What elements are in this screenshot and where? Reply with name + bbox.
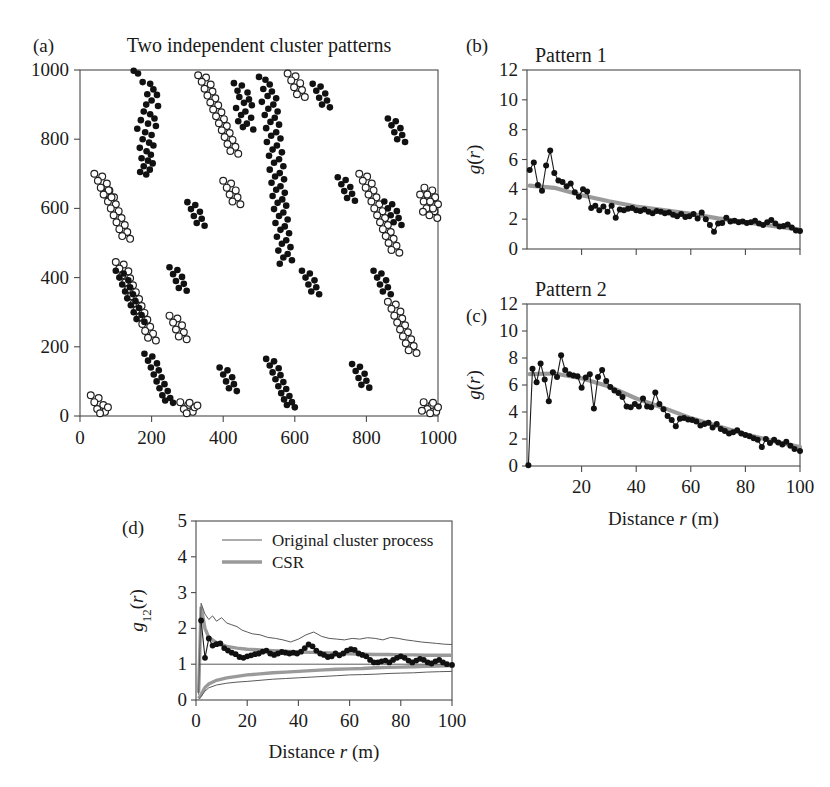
scatter-point-pattern1 xyxy=(153,378,160,385)
panel-d-x-tick-label: 60 xyxy=(340,710,359,731)
scatter-point-pattern2 xyxy=(221,134,228,141)
panel-d-x-tick-label: 0 xyxy=(191,710,201,731)
scatter-point-pattern1 xyxy=(119,281,126,288)
panel-b-data-point xyxy=(568,180,574,186)
scatter-point-pattern1 xyxy=(148,151,155,158)
scatter-point-pattern2 xyxy=(301,94,308,101)
panel-b-data-point xyxy=(711,229,717,235)
scatter-point-pattern1 xyxy=(235,118,242,125)
scatter-point-pattern1 xyxy=(274,233,281,240)
scatter-point-pattern2 xyxy=(216,120,223,127)
scatter-point-pattern1 xyxy=(130,291,137,298)
scatter-point-pattern1 xyxy=(240,124,247,131)
panel-b-data-point xyxy=(691,211,697,217)
panel-c-data-point xyxy=(792,446,798,452)
scatter-point-pattern2 xyxy=(385,240,392,247)
panel-b-y-tick-label: 4 xyxy=(509,178,519,199)
panel-b-y-tick-label: 10 xyxy=(499,89,518,110)
scatter-point-pattern2 xyxy=(284,70,291,77)
scatter-point-pattern2 xyxy=(297,80,304,87)
panel-b-data-point xyxy=(699,210,705,216)
scatter-point-pattern1 xyxy=(128,302,135,309)
scatter-point-pattern1 xyxy=(269,369,276,376)
scatter-point-pattern1 xyxy=(125,277,132,284)
scatter-point-pattern1 xyxy=(277,227,284,234)
scatter-point-pattern1 xyxy=(281,190,288,197)
scatter-point-pattern2 xyxy=(356,170,363,177)
panel-c-y-tick-label: 4 xyxy=(509,401,519,422)
scatter-point-pattern2 xyxy=(103,180,110,187)
scatter-point-pattern1 xyxy=(179,274,186,281)
scatter-point-pattern1 xyxy=(276,260,283,267)
scatter-point-pattern1 xyxy=(266,362,273,369)
scatter-point-pattern1 xyxy=(391,129,398,136)
panel-c-data-point xyxy=(755,437,761,443)
scatter-point-pattern1 xyxy=(265,105,272,112)
panel-b-data-point xyxy=(576,194,582,200)
panel-b-title: Pattern 1 xyxy=(535,44,607,66)
panel-c-data-point xyxy=(673,423,679,429)
panel-c-data-point xyxy=(591,406,597,412)
scatter-point-pattern1 xyxy=(116,274,123,281)
scatter-point-pattern1 xyxy=(223,378,230,385)
panel-c-data-point xyxy=(652,389,658,395)
scatter-point-pattern2 xyxy=(224,141,231,148)
scatter-point-pattern1 xyxy=(316,291,323,298)
scatter-point-pattern2 xyxy=(426,212,433,219)
scatter-point-pattern1 xyxy=(260,86,267,93)
scatter-point-pattern2 xyxy=(173,326,180,333)
scatter-point-pattern2 xyxy=(434,215,441,222)
panel-c-y-tick-label: 8 xyxy=(509,347,519,368)
panel-b-data-point xyxy=(797,228,803,234)
panel-d-ylabel: g12(r) xyxy=(126,589,154,632)
scatter-point-pattern2 xyxy=(119,233,126,240)
scatter-point-pattern1 xyxy=(269,146,276,153)
panel-c-data-point xyxy=(587,371,593,377)
scatter-point-pattern1 xyxy=(272,173,279,180)
panel-b-y-tick-label: 12 xyxy=(499,59,518,80)
panel-d-y-tick-label: 2 xyxy=(178,617,188,638)
scatter-point-pattern1 xyxy=(183,287,190,294)
panel-d-data-point xyxy=(444,661,450,667)
panel-a-y-tick-label: 200 xyxy=(41,336,70,357)
scatter-point-pattern1 xyxy=(134,126,141,133)
scatter-point-pattern2 xyxy=(388,305,395,312)
scatter-point-pattern1 xyxy=(148,364,155,371)
scatter-point-pattern2 xyxy=(213,113,220,120)
scatter-point-pattern1 xyxy=(244,89,251,96)
scatter-point-pattern1 xyxy=(148,132,155,139)
scatter-point-pattern1 xyxy=(292,404,299,411)
scatter-point-pattern1 xyxy=(275,247,282,254)
panel-c-data-point xyxy=(595,374,601,380)
scatter-point-pattern1 xyxy=(229,374,236,381)
scatter-point-pattern1 xyxy=(305,281,312,288)
panel-b-data-point xyxy=(543,163,549,169)
scatter-point-pattern1 xyxy=(256,74,263,81)
scatter-point-pattern1 xyxy=(176,285,183,292)
scatter-point-pattern1 xyxy=(397,125,404,132)
scatter-point-pattern1 xyxy=(387,291,394,298)
scatter-point-pattern2 xyxy=(100,191,107,198)
panel-d-y-tick-label: 3 xyxy=(178,582,188,603)
panel-c-data-point xyxy=(797,448,803,454)
scatter-point-pattern2 xyxy=(391,312,398,319)
scatter-point-pattern2 xyxy=(183,336,190,343)
scatter-point-pattern2 xyxy=(371,205,378,212)
panel-c-data-point xyxy=(603,378,609,384)
panel-b-data-point xyxy=(613,215,619,221)
scatter-point-pattern1 xyxy=(261,112,268,119)
panel-c-title: Pattern 2 xyxy=(535,278,607,300)
scatter-point-pattern1 xyxy=(279,240,286,247)
scatter-point-pattern1 xyxy=(236,94,243,101)
panel-b-label: (b) xyxy=(466,35,488,57)
scatter-point-pattern2 xyxy=(294,91,301,98)
scatter-point-pattern2 xyxy=(379,226,386,233)
scatter-point-pattern1 xyxy=(272,376,279,383)
panel-c-ylabel: g(r) xyxy=(463,370,485,400)
scatter-point-pattern1 xyxy=(268,132,275,139)
scatter-point-pattern2 xyxy=(223,184,230,191)
scatter-point-pattern1 xyxy=(141,319,148,326)
panel-d-y-tick-label: 0 xyxy=(178,689,188,710)
scatter-point-pattern1 xyxy=(276,213,283,220)
scatter-point-pattern1 xyxy=(374,274,381,281)
